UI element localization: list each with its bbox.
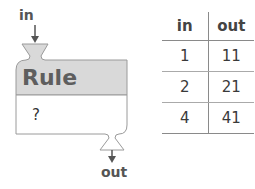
table-header-row: in out xyxy=(162,12,254,41)
input-label: in xyxy=(19,7,34,23)
rule-title: Rule xyxy=(22,65,77,90)
machine-shape xyxy=(0,0,140,189)
cell-in: 2 xyxy=(162,72,208,103)
rule-unknown: ? xyxy=(32,106,40,124)
header-out: out xyxy=(208,12,254,41)
cell-out: 11 xyxy=(208,41,254,72)
function-machine: in Rule ? out xyxy=(0,0,140,189)
cell-out: 41 xyxy=(208,103,254,134)
table-row: 1 11 xyxy=(162,41,254,72)
table-row: 2 21 xyxy=(162,72,254,103)
input-output-table: in out 1 11 2 21 4 41 xyxy=(162,12,254,134)
table-row: 4 41 xyxy=(162,103,254,134)
cell-in: 1 xyxy=(162,41,208,72)
cell-out: 21 xyxy=(208,72,254,103)
header-in: in xyxy=(162,12,208,41)
cell-in: 4 xyxy=(162,103,208,134)
output-label: out xyxy=(101,164,127,180)
